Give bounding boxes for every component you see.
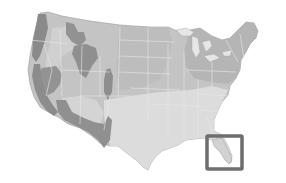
- us-map: [0, 0, 286, 183]
- us-map-svg: [0, 0, 286, 183]
